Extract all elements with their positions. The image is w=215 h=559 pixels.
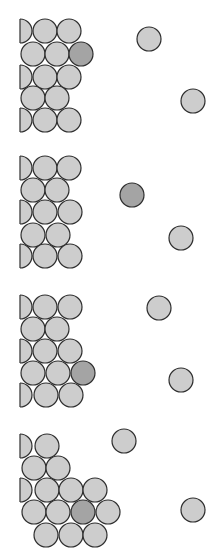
lattice-atom bbox=[45, 86, 69, 110]
lattice-atom bbox=[33, 65, 57, 89]
highlighted-atom bbox=[69, 42, 93, 66]
lattice-atom bbox=[58, 339, 82, 363]
panel-2 bbox=[8, 156, 193, 268]
lattice-atom bbox=[58, 244, 82, 268]
lattice-atom bbox=[33, 295, 57, 319]
lattice-atom bbox=[22, 500, 46, 524]
lattice-atom bbox=[58, 200, 82, 224]
lattice-atom bbox=[46, 500, 70, 524]
lattice-atom bbox=[59, 478, 83, 502]
lattice-atom bbox=[33, 156, 57, 180]
edge-half-atom bbox=[8, 339, 32, 363]
lattice-atom bbox=[58, 295, 82, 319]
free-atom bbox=[137, 27, 161, 51]
lattice-atom bbox=[21, 223, 45, 247]
lattice-atom bbox=[34, 383, 58, 407]
panel-1 bbox=[8, 19, 205, 132]
highlighted-atom bbox=[71, 500, 95, 524]
lattice-atom bbox=[46, 456, 70, 480]
lattice-atom bbox=[83, 478, 107, 502]
lattice-atom bbox=[57, 156, 81, 180]
free-atom bbox=[169, 226, 193, 250]
lattice-atom bbox=[57, 19, 81, 43]
lattice-atom bbox=[45, 42, 69, 66]
lattice-atom bbox=[57, 65, 81, 89]
lattice-atom bbox=[34, 523, 58, 547]
lattice-atom bbox=[33, 200, 57, 224]
free-atom bbox=[181, 89, 205, 113]
lattice-atom bbox=[45, 178, 69, 202]
lattice-atom bbox=[35, 478, 59, 502]
lattice-atom bbox=[45, 317, 69, 341]
lattice-atom bbox=[33, 19, 57, 43]
edge-half-atom bbox=[8, 434, 32, 458]
free-atom bbox=[169, 368, 193, 392]
lattice-atom bbox=[35, 434, 59, 458]
lattice-atom bbox=[21, 178, 45, 202]
edge-half-atom bbox=[8, 383, 32, 407]
lattice-atom bbox=[33, 339, 57, 363]
free-atom bbox=[147, 296, 171, 320]
lattice-atom bbox=[21, 317, 45, 341]
edge-half-atom bbox=[8, 108, 32, 132]
free-atom bbox=[181, 498, 205, 522]
lattice-atom bbox=[21, 86, 45, 110]
highlighted-free-atom bbox=[120, 183, 144, 207]
lattice-atom bbox=[96, 500, 120, 524]
lattice-atom bbox=[33, 108, 57, 132]
edge-half-atom bbox=[8, 478, 32, 502]
lattice-atom bbox=[59, 523, 83, 547]
edge-half-atom bbox=[8, 244, 32, 268]
edge-half-atom bbox=[8, 156, 32, 180]
lattice-atom bbox=[21, 361, 45, 385]
edge-half-atom bbox=[8, 65, 32, 89]
lattice-atom bbox=[57, 108, 81, 132]
lattice-atom bbox=[83, 523, 107, 547]
edge-half-atom bbox=[8, 295, 32, 319]
edge-half-atom bbox=[8, 19, 32, 43]
lattice-atom bbox=[59, 383, 83, 407]
lattice-atom bbox=[46, 361, 70, 385]
free-atom bbox=[112, 429, 136, 453]
lattice-atom bbox=[22, 456, 46, 480]
edge-half-atom bbox=[8, 200, 32, 224]
lattice-atom bbox=[46, 223, 70, 247]
highlighted-atom bbox=[71, 361, 95, 385]
panel-3 bbox=[8, 295, 193, 407]
lattice-atom bbox=[33, 244, 57, 268]
panels-group bbox=[8, 19, 205, 547]
atom-packing-diagram bbox=[0, 0, 215, 559]
lattice-atom bbox=[21, 42, 45, 66]
panel-4 bbox=[8, 429, 205, 547]
